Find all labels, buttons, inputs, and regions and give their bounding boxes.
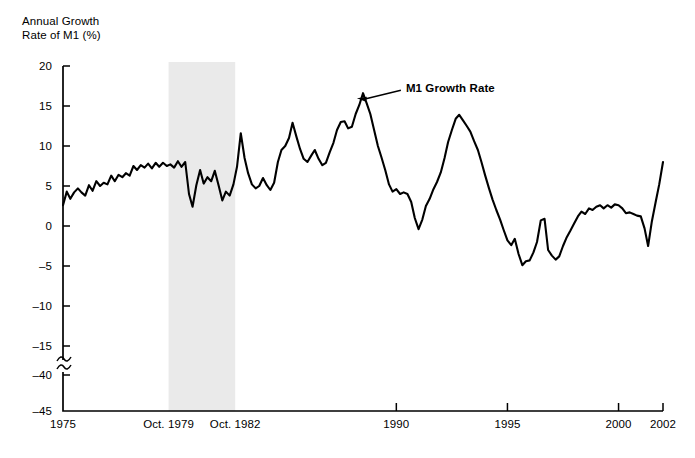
x-tick-1990: 1990: [383, 418, 409, 430]
chart-figure: Annual Growth Rate of M1 (%) 20151050–5–…: [0, 0, 695, 458]
m1-growth-rate-line: [63, 93, 663, 265]
y-tick-neg15: –15: [0, 340, 52, 352]
series-annotation-label: M1 Growth Rate: [406, 82, 495, 94]
x-tick-1995: 1995: [494, 418, 520, 430]
y-tick-neg40: –40: [0, 369, 52, 381]
y-tick-20: 20: [0, 60, 52, 72]
y-tick-15: 15: [0, 100, 52, 112]
y-tick-neg45: –45: [0, 405, 52, 417]
y-tick-10: 10: [0, 140, 52, 152]
recession-shaded-band: [169, 62, 236, 411]
y-tick-5: 5: [0, 180, 52, 192]
x-label-band-end: Oct. 1982: [210, 418, 261, 430]
x-tick-2002: 2002: [650, 418, 676, 430]
x-label-band-start: Oct. 1979: [143, 418, 194, 430]
line-chart-plot: [0, 0, 695, 458]
y-tick-neg5: –5: [0, 260, 52, 272]
y-tick-0: 0: [0, 220, 52, 232]
chart-axes: [57, 66, 663, 411]
x-tick-1975: 1975: [50, 418, 76, 430]
x-tick-2000: 2000: [606, 418, 632, 430]
y-tick-neg10: –10: [0, 300, 52, 312]
